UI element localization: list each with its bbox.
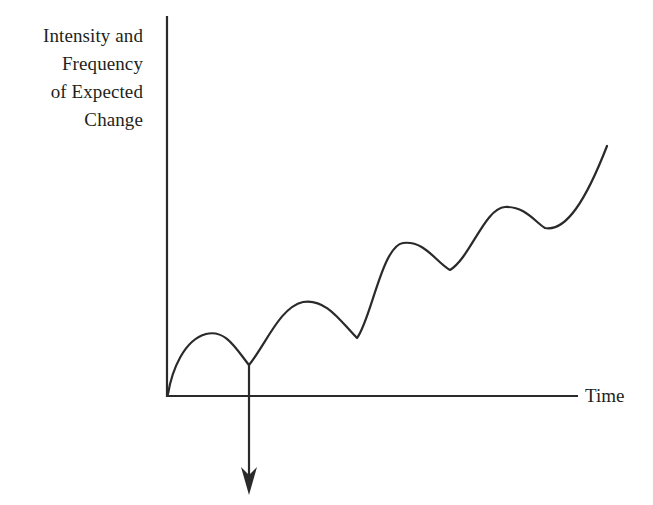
chart-figure: Intensity and Frequency of Expected Chan… <box>0 0 653 505</box>
chart-plot-area <box>0 0 653 505</box>
change-curve <box>168 146 607 394</box>
